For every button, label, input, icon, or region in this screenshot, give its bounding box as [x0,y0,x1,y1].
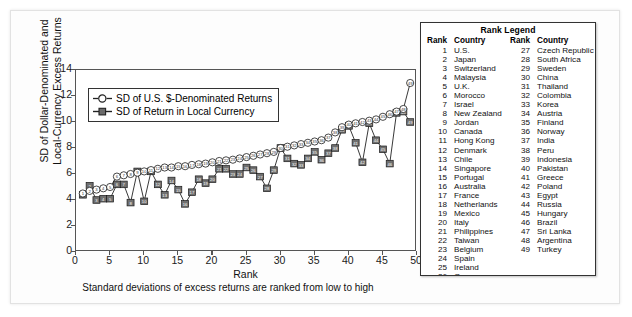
data-point-usd: 34 [304,139,311,146]
data-point-local: 29 [270,167,277,174]
rank-legend-row: 33Korea [508,100,591,109]
country-name: Finland [530,118,564,127]
rank-legend-row: 30China [508,73,591,82]
legend-item-usd: SD of U.S. $-Denominated Returns [93,92,272,105]
rank-legend-row: 7Israel [425,100,508,109]
country-name: Czech Republic [530,46,594,55]
rank-value: 49 [508,245,530,254]
data-point-usd: 21 [216,157,223,164]
rank-legend-table: Rank Legend Rank Country Rank Country 1U… [420,22,596,276]
data-point-local: 35 [311,149,318,156]
rank-legend-row: 20Italy [425,218,508,227]
data-point-local: 26 [250,167,257,174]
legend-label-local: SD of Return in Local Currency [116,106,254,117]
svg-text:44: 44 [374,117,379,122]
svg-text:36: 36 [319,138,324,143]
data-point-usd: 15 [175,163,182,170]
data-point-local: 13 [161,192,168,199]
country-name: Australia [447,182,486,191]
data-point-local: 28 [263,185,270,192]
x-tick-mark [416,251,417,255]
svg-text:21: 21 [217,167,222,172]
svg-text:22: 22 [224,167,229,172]
rank-value: 4 [425,73,447,82]
rank-legend-row: 4Malaysia [425,73,508,82]
x-tick-label: 20 [199,254,223,266]
rank-legend-row: 13Chile [425,155,508,164]
y-tick-label: 8 [50,140,72,152]
svg-text:24: 24 [237,172,242,177]
svg-text:16: 16 [183,202,188,207]
rank-value: 5 [425,82,447,91]
chart-series-legend: SD of U.S. $-Denominated Returns SD of R… [88,88,279,122]
rank-legend-row: 17France [425,191,508,200]
svg-text:19: 19 [203,161,208,166]
rank-value: 26 [425,272,447,276]
rank-value: 40 [508,164,530,173]
country-name: China [530,73,558,82]
rank-value: 25 [425,263,447,272]
data-point-usd: 17 [188,161,195,168]
rank-value: 45 [508,209,530,218]
rank-value: 21 [425,227,447,236]
country-name: Philippines [447,227,493,236]
data-point-usd: 14 [168,164,175,171]
rank-value: 2 [425,55,447,64]
data-point-local: 31 [284,155,291,162]
data-point-local: 42 [359,159,366,166]
rank-value: 24 [425,254,447,263]
data-point-local: 45 [379,146,386,153]
data-point-local: 22 [223,166,230,173]
country-name: South Africa [530,55,581,64]
data-point-usd: 37 [325,134,332,141]
data-point-usd: 12 [154,165,161,172]
data-point-local: 16 [182,201,189,208]
x-tick-mark [109,251,110,255]
country-name: Italy [447,218,469,227]
svg-text:30: 30 [278,146,283,151]
y-tick-mark [71,173,75,174]
rank-value: 17 [425,191,447,200]
rank-legend-row: 3Switzerland [425,64,508,73]
data-point-usd: 42 [359,118,366,125]
svg-text:11: 11 [149,168,154,173]
data-point-usd: 30 [277,144,284,151]
country-name: Switzerland [447,64,496,73]
data-point-usd: 11 [147,167,154,174]
svg-text:15: 15 [176,164,181,169]
svg-text:35: 35 [312,150,317,155]
svg-text:29: 29 [271,150,276,155]
country-name: Sri Lanka [530,227,571,236]
svg-text:27: 27 [258,175,263,180]
rank-value: 22 [425,236,447,245]
data-point-local: 25 [243,164,250,171]
data-point-usd: 18 [195,161,202,168]
country-name: Germany [447,272,487,276]
data-point-local: 19 [202,180,209,187]
rank-legend-row: 8New Zealand [425,109,508,118]
rank-value: 43 [508,191,530,200]
country-name: Norway [530,127,564,136]
country-name: Israel [447,100,474,109]
column-header-rank-right: Rank [508,36,530,45]
rank-legend-row: 49Turkey [508,245,591,254]
x-axis-sublabel: Standard deviations of excess returns ar… [28,282,428,293]
y-tick-label: 6 [50,166,72,178]
legend-item-local: SD of Return in Local Currency [93,105,272,118]
rank-value: 31 [508,82,530,91]
svg-text:45: 45 [381,147,386,152]
data-point-local: 36 [318,156,325,163]
rank-legend-row: 2Japan [425,55,508,64]
svg-text:24: 24 [237,156,242,161]
rank-legend-body: 1U.S.2Japan3Switzerland4Malaysia5U.K.6Mo… [421,46,595,276]
rank-legend-row: 35Finland [508,118,591,127]
x-axis-label: Rank [75,268,416,280]
rank-value: 37 [508,136,530,145]
country-name: Hungary [530,209,568,218]
rank-legend-row: 10Canada [425,127,508,136]
svg-text:23: 23 [231,172,236,177]
country-name: Spain [447,254,475,263]
x-tick-mark [143,251,144,255]
data-point-usd: 7 [120,172,127,179]
x-tick-label: 15 [165,254,189,266]
